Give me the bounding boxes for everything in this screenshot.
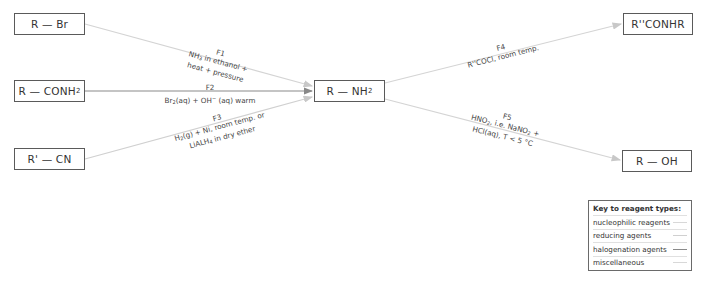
compound-substituted-amide: R''CONHR [623,13,693,35]
key-swatch-reducing [673,235,687,236]
compound-nitrile: R' — CN [14,148,85,170]
compound-amine: R — NH2 [314,80,385,102]
key-swatch-miscellaneous [673,262,687,263]
key-item-miscellaneous: miscellaneous [593,256,687,270]
key-item-nucleophilic: nucleophilic reagents [593,215,687,229]
key-item-halogenation: halogenation agents [593,242,687,256]
reagent-key: Key to reagent types: nucleophilic reage… [588,200,692,271]
key-swatch-halogenation [673,249,687,250]
compound-alcohol: R — OH [622,150,692,172]
key-title: Key to reagent types: [593,204,687,213]
key-item-reducing: reducing agents [593,229,687,243]
key-swatch-nucleophilic [673,222,687,223]
compound-amide: R — CONH2 [14,80,85,102]
compound-bromoalkane: R — Br [14,13,85,35]
